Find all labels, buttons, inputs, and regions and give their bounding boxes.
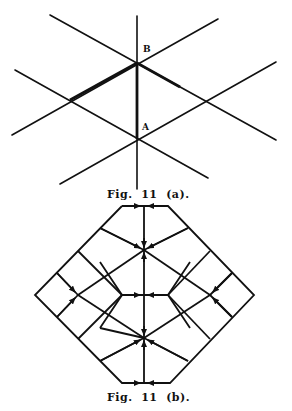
inner-right-chevron bbox=[168, 262, 190, 328]
caption-11b: Fig. 11 (b). bbox=[107, 391, 190, 404]
figure-11b bbox=[0, 0, 292, 411]
